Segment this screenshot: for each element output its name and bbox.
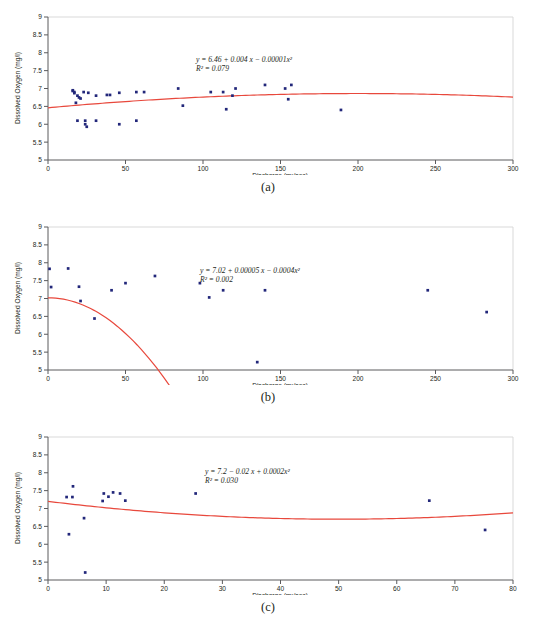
y-tick-label: 5 <box>38 576 42 583</box>
y-axis-title: Dissolved Oxygen (mg/l) <box>14 472 22 544</box>
data-point <box>124 499 127 502</box>
data-point <box>485 311 488 314</box>
y-tick-label: 8 <box>38 469 42 476</box>
y-tick-label: 9 <box>38 223 42 230</box>
y-tick-label: 6.5 <box>33 523 42 530</box>
data-point <box>256 361 259 364</box>
data-point <box>106 94 109 97</box>
data-point <box>118 91 121 94</box>
y-tick-label: 6 <box>38 331 42 338</box>
data-point <box>208 296 211 299</box>
data-point <box>340 109 343 112</box>
equation-label: y = 7.02 + 0.00005 x − 0.0004x² <box>199 266 301 275</box>
x-tick-label: 30 <box>219 585 227 592</box>
data-point <box>85 125 88 128</box>
data-point <box>290 84 293 87</box>
data-point <box>209 91 212 94</box>
x-tick-label: 20 <box>161 585 169 592</box>
y-ticks-b: 9 8.5 8 7.5 7 6.5 6 5.5 5 <box>33 223 48 373</box>
data-point <box>177 87 180 90</box>
data-point <box>119 492 122 495</box>
fit-curve-c <box>48 501 513 519</box>
figure-page: 9 8.5 8 7.5 7 6.5 6 5.5 5 <box>0 0 536 630</box>
y-tick-label: 6.5 <box>33 103 42 110</box>
x-tick-label: 250 <box>430 165 441 172</box>
x-tick-label: 50 <box>122 375 130 382</box>
y-tick-label: 6 <box>38 541 42 548</box>
x-tick-label: 150 <box>275 165 286 172</box>
y-tick-label: 8.5 <box>33 31 42 38</box>
fit-curve-a <box>48 94 513 108</box>
data-point <box>102 492 105 495</box>
x-tick-label: 100 <box>197 375 208 382</box>
data-points-c <box>65 485 486 574</box>
r-squared-label: R² = 0.030 <box>204 476 238 485</box>
data-point <box>84 119 87 122</box>
y-tick-label: 9 <box>38 13 42 20</box>
data-point <box>95 119 98 122</box>
data-point <box>118 123 121 126</box>
x-tick-label: 60 <box>393 585 401 592</box>
x-tick-label: 300 <box>507 375 518 382</box>
y-tick-label: 7.5 <box>33 277 42 284</box>
data-point <box>95 94 98 97</box>
y-ticks-a: 9 8.5 8 7.5 7 6.5 6 5.5 5 <box>33 13 48 163</box>
data-points-a <box>71 84 342 129</box>
data-point <box>135 119 138 122</box>
y-tick-label: 5 <box>38 156 42 163</box>
data-point <box>143 91 146 94</box>
y-tick-label: 5 <box>38 366 42 373</box>
y-tick-label: 8.5 <box>33 241 42 248</box>
x-tick-label: 0 <box>46 375 50 382</box>
x-tick-label: 150 <box>275 375 286 382</box>
y-tick-label: 7.5 <box>33 67 42 74</box>
plot-frame-b <box>48 227 513 370</box>
data-point <box>234 87 237 90</box>
data-point <box>50 286 53 289</box>
y-tick-label: 6.5 <box>33 313 42 320</box>
y-ticks-c: 9 8.5 8 7.5 7 6.5 6 5.5 5 <box>33 433 48 583</box>
x-tick-label: 10 <box>102 585 110 592</box>
x-tick-label: 100 <box>197 165 208 172</box>
y-tick-label: 7 <box>38 85 42 92</box>
data-point <box>264 84 267 87</box>
data-point <box>84 571 87 574</box>
plot-svg-a: 9 8.5 8 7.5 7 6.5 6 5.5 5 <box>0 0 536 175</box>
data-point <box>75 101 78 104</box>
data-point <box>83 517 86 520</box>
data-point <box>71 496 74 499</box>
plot-svg-b: 9 8.5 8 7.5 7 6.5 6 5.5 5 <box>0 210 536 385</box>
data-point <box>225 108 228 111</box>
data-point <box>67 267 70 270</box>
y-tick-label: 7 <box>38 505 42 512</box>
y-tick-label: 7.5 <box>33 487 42 494</box>
data-point <box>426 289 429 292</box>
data-point <box>222 289 225 292</box>
scatter-plot-c: 9 8.5 8 7.5 7 6.5 6 5.5 5 <box>0 420 536 595</box>
x-tick-label: 250 <box>430 375 441 382</box>
x-tick-label: 50 <box>122 165 130 172</box>
y-tick-label: 5.5 <box>33 349 42 356</box>
y-tick-label: 8 <box>38 259 42 266</box>
data-point <box>68 533 71 536</box>
data-point <box>231 94 234 97</box>
y-axis-title: Dissolved Oxygen (mg/l) <box>14 52 22 124</box>
x-tick-label: 50 <box>335 585 343 592</box>
x-ticks-c: 0 10 20 30 40 50 60 70 80 <box>46 580 517 592</box>
data-point <box>93 317 96 320</box>
x-tick-label: 70 <box>451 585 459 592</box>
data-point <box>87 91 90 94</box>
panel-caption-a: (a) <box>0 180 536 195</box>
panel-caption-c: (c) <box>0 600 536 615</box>
data-point <box>112 491 115 494</box>
data-point <box>287 98 290 101</box>
data-point <box>76 119 79 122</box>
y-tick-label: 9 <box>38 433 42 440</box>
y-tick-label: 8 <box>38 49 42 56</box>
data-point <box>264 289 267 292</box>
r-squared-label: R² = 0.079 <box>195 64 229 73</box>
x-tick-label: 0 <box>46 585 50 592</box>
x-tick-label: 0 <box>46 165 50 172</box>
data-point <box>48 267 51 270</box>
data-point <box>124 282 127 285</box>
